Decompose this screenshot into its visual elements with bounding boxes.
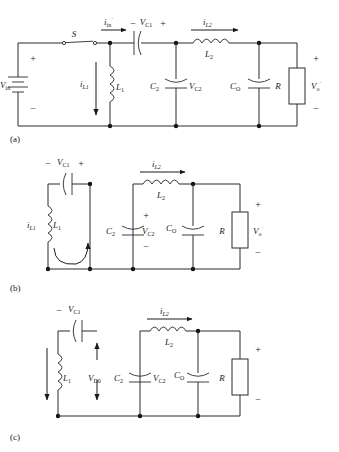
resistor-R-c: [232, 331, 248, 416]
label-vc1-minus-c: −: [56, 305, 62, 316]
caption-c: (c): [10, 432, 20, 442]
capacitor-C2-a: [165, 43, 187, 126]
label-vo-plus-b: +: [255, 199, 261, 210]
inductor-L1-a: [110, 43, 114, 126]
label-vc2-minus-b: −: [143, 241, 149, 252]
inductor-L2-b: [143, 180, 179, 184]
inductor-L1-c: [58, 331, 62, 416]
label-VD0-c: VD0: [88, 373, 101, 384]
label-C2-a: C2: [150, 81, 159, 92]
capacitor-C1-c: [58, 320, 97, 342]
panel-a: S iin˙ − VC1 + iL2 L2 + − Vin iL1 L1 C2: [0, 17, 322, 144]
label-VC2-a: VC2: [189, 81, 202, 92]
inductor-L2-a: [193, 39, 229, 43]
label-R-c: R: [218, 373, 225, 383]
label-L2-b: L2: [156, 190, 165, 201]
label-Vo-b: Vo˙: [253, 226, 264, 237]
label-out-plus-c: +: [255, 344, 261, 355]
circuit-figure: S iin˙ − VC1 + iL2 L2 + − Vin iL1 L1 C2: [0, 0, 339, 452]
label-VC1-c: VC1: [68, 304, 81, 315]
label-CO-a: CO: [230, 81, 241, 92]
label-L2-a: L2: [204, 49, 213, 60]
label-L1-b: L1: [52, 220, 61, 231]
label-vo-plus-a: +: [313, 53, 319, 64]
label-vin-plus: +: [30, 53, 36, 64]
label-L1-a: L1: [115, 82, 124, 93]
capacitor-CO-c: [187, 331, 209, 416]
label-CO-b: CO: [166, 223, 177, 234]
label-vin-minus: −: [30, 103, 36, 114]
label-out-minus-c: −: [255, 394, 261, 405]
label-L1-c: L1: [62, 373, 71, 384]
label-vc1-minus-a: −: [130, 18, 136, 29]
voltage-source-Vin: [8, 43, 28, 126]
label-L2-c: L2: [164, 337, 173, 348]
capacitor-C1-a: [123, 31, 156, 55]
resistor-R-b: [232, 184, 248, 269]
label-iL2-a: iL2: [203, 17, 212, 28]
label-switch-S: S: [72, 29, 77, 39]
label-vc1-plus-a: +: [160, 18, 166, 29]
label-iL2-c: iL2: [160, 306, 169, 317]
label-iL1-a: iL1: [80, 79, 89, 90]
label-C2-c: C2: [114, 373, 123, 384]
label-Vo-a: Vo˙: [311, 81, 322, 92]
label-CO-c: CO: [174, 370, 185, 381]
label-R-a: R: [274, 81, 281, 91]
label-VC2-b: VC2: [142, 226, 155, 237]
capacitor-CO-b: [182, 184, 204, 269]
inductor-L2-c: [150, 327, 186, 331]
label-VC1-b: VC1: [57, 157, 70, 168]
label-VC1-a: VC1: [140, 17, 153, 28]
switch-S[interactable]: [62, 41, 96, 44]
capacitor-C1-b: [48, 173, 90, 195]
label-iin: iin˙: [104, 17, 113, 28]
label-C2-b: C2: [106, 226, 115, 237]
loop-current-arrow-b: [54, 243, 88, 264]
label-VC2-c: VC2: [153, 373, 166, 384]
inductor-L1-b: [48, 184, 52, 269]
label-vo-minus-a: −: [313, 103, 319, 114]
panel-c: − VC1 L1 VD0 iL2 L2 C2 VC2 CO R + − (c): [10, 304, 261, 442]
label-vc1-minus-b: −: [45, 158, 51, 169]
label-vc1-plus-b: +: [78, 158, 84, 169]
resistor-R-a: [289, 43, 305, 126]
panel-b: − VC1 + iL1 L1 iL2 L2 C2 + VC2 − CO R Vo: [10, 157, 264, 293]
caption-a: (a): [10, 134, 20, 144]
label-R-b: R: [218, 226, 225, 236]
caption-b: (b): [10, 283, 21, 293]
label-vc2-plus-b: +: [143, 210, 149, 221]
label-Vin: Vin: [0, 80, 10, 91]
capacitor-CO-a: [248, 43, 270, 126]
label-iL2-b: iL2: [152, 159, 161, 170]
label-iL1-b: iL1: [27, 220, 36, 231]
label-vo-minus-b: −: [255, 247, 261, 258]
